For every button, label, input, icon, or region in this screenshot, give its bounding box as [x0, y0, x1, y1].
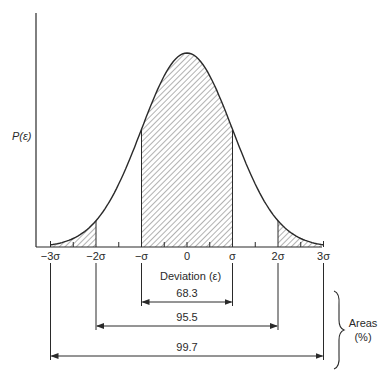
tick-labels: −3σ−2σ−σ0σ2σ3σ	[41, 250, 330, 262]
area-value-label: 95.5	[176, 311, 197, 323]
area-arrows: 68.395.599.7	[52, 287, 323, 356]
tick-label: 0	[184, 250, 190, 262]
area-value-label: 99.7	[176, 341, 197, 353]
areas-label: Areas	[349, 317, 378, 329]
x-axis-label: Deviation (ε)	[160, 270, 221, 282]
areas-unit-label: (%)	[354, 331, 371, 343]
tick-label: 2σ	[272, 250, 285, 262]
shaded-region-1	[142, 53, 233, 247]
tick-label: 3σ	[317, 250, 330, 262]
area-value-label: 68.3	[176, 287, 197, 299]
y-axis-label: P(ε)	[12, 130, 32, 142]
areas-brace	[334, 291, 344, 369]
tick-label: σ	[229, 250, 236, 262]
normal-distribution-diagram: −3σ−2σ−σ0σ2σ3σ 68.395.599.7 P(ε) Deviati…	[0, 0, 382, 378]
tick-label: −σ	[135, 250, 148, 262]
tick-label: −2σ	[86, 250, 106, 262]
tick-label: −3σ	[41, 250, 61, 262]
shaded-regions	[51, 53, 324, 247]
